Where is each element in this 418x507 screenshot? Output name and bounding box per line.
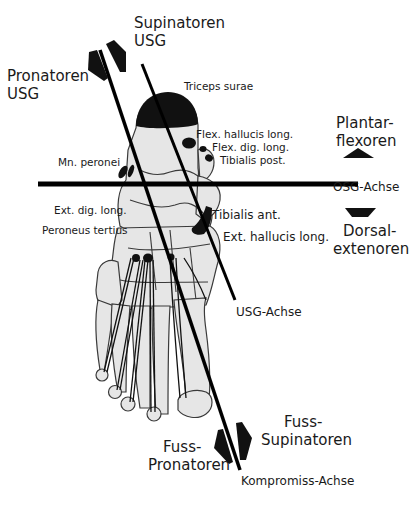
label-fuss-pronatoren-2: Pronatoren (148, 456, 230, 474)
label-usg-achse: USG-Achse (236, 305, 302, 319)
label-plantarflexoren-1: Plantar- (336, 114, 394, 132)
label-peroneus-tertius: Peroneus tertius (42, 224, 128, 236)
label-dorsalextenoren-2: extenoren (333, 240, 409, 258)
flex-dig-long-muscle (200, 146, 207, 152)
toe-1 (178, 390, 212, 417)
diagram-canvas: Supinatoren USG Pronatoren USG Triceps s… (0, 0, 418, 507)
label-fuss-pronatoren-1: Fuss- (163, 438, 201, 456)
triceps-surae-muscle (136, 92, 198, 128)
label-flex-dig-long: Flex. dig. long. (212, 141, 289, 153)
toe-5 (96, 369, 108, 381)
label-tibialis-post: Tibialis post. (219, 154, 286, 166)
toe-2 (147, 407, 161, 421)
label-fuss-supinatoren-2: Supinatoren (261, 431, 352, 449)
label-ext-hallucis-long: Ext. hallucis long. (223, 230, 329, 244)
flex-hallucis-long-muscle (182, 138, 196, 149)
peroneus-tertius-muscle (132, 254, 140, 262)
label-kompromiss-achse: Kompromiss-Achse (241, 474, 354, 488)
label-mn-peronei: Mn. peronei (58, 156, 120, 168)
label-flex-hallucis-long: Flex. hallucis long. (196, 128, 293, 140)
toe-4 (109, 386, 122, 399)
supinatoren-usg-arrow (106, 40, 126, 72)
label-ext-dig-long: Ext. dig. long. (54, 204, 127, 216)
label-pronatoren-usg-1: Pronatoren (7, 67, 89, 85)
label-tibialis-ant: Tibialis ant. (211, 208, 281, 222)
label-pronatoren-usg-2: USG (7, 85, 39, 103)
label-supinatoren-usg-2: USG (134, 32, 166, 50)
label-supinatoren-usg-1: Supinatoren (134, 14, 225, 32)
dorsalextenoren-arrow-down (345, 208, 376, 217)
label-plantarflexoren-2: flexoren (336, 132, 397, 150)
label-dorsalextenoren-1: Dorsal- (343, 222, 396, 240)
label-fuss-supinatoren-1: Fuss- (284, 413, 322, 431)
ext-dig-long-muscle (143, 254, 153, 263)
label-triceps-surae: Triceps surae (183, 80, 253, 92)
fuss-supinatoren-arrow (236, 422, 252, 460)
tarsals (110, 226, 220, 310)
foot-axes-diagram: Supinatoren USG Pronatoren USG Triceps s… (0, 0, 418, 507)
label-osg-achse: OSG-Achse (333, 180, 399, 194)
